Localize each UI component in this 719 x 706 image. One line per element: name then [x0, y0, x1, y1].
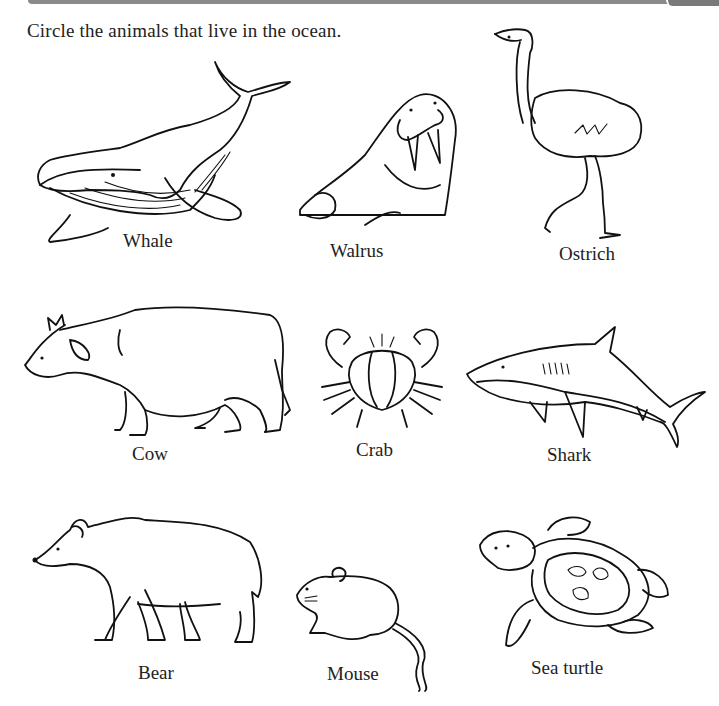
bear-picture[interactable]: Bear	[30, 512, 270, 677]
sea-turtle-icon	[478, 510, 703, 660]
animal-label-cow: Cow	[132, 443, 168, 465]
animal-label-ostrich: Ostrich	[559, 243, 615, 265]
shark-icon	[465, 322, 715, 452]
cow-picture[interactable]: Cow	[20, 300, 290, 470]
animal-label-mouse: Mouse	[327, 663, 379, 685]
animal-label-walrus: Walrus	[330, 240, 383, 262]
cow-icon	[20, 300, 290, 440]
whale-icon	[30, 60, 300, 250]
animal-label-sea-turtle: Sea turtle	[531, 657, 603, 679]
ostrich-picture[interactable]: Ostrich	[495, 28, 675, 293]
whale-picture[interactable]: Whale	[30, 60, 300, 250]
sea-turtle-picture[interactable]: Sea turtle	[478, 510, 703, 690]
crab-icon	[312, 322, 452, 432]
walrus-picture[interactable]: Walrus	[290, 85, 460, 265]
header-tab	[666, 0, 719, 6]
walrus-icon	[290, 85, 460, 235]
crab-picture[interactable]: Crab	[312, 322, 452, 472]
mouse-picture[interactable]: Mouse	[295, 563, 455, 703]
animal-label-whale: Whale	[123, 230, 173, 252]
ostrich-icon	[495, 28, 675, 253]
instruction-text: Circle the animals that live in the ocea…	[27, 20, 341, 42]
animal-label-crab: Crab	[356, 439, 393, 461]
shark-picture[interactable]: Shark	[465, 322, 715, 472]
bear-icon	[30, 512, 270, 652]
header-bar	[28, 0, 700, 4]
animal-label-shark: Shark	[547, 444, 591, 466]
animal-label-bear: Bear	[138, 662, 174, 684]
